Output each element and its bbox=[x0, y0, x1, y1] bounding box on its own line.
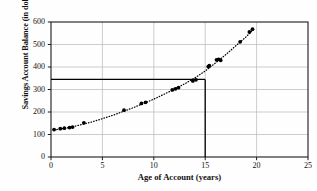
reference-lines bbox=[51, 79, 205, 157]
axis-ticks bbox=[48, 22, 308, 160]
savings-account-chart: Savings Account Balance (in dollars) Age… bbox=[0, 0, 317, 191]
gridlines bbox=[51, 22, 308, 157]
plot-canvas bbox=[0, 0, 317, 191]
